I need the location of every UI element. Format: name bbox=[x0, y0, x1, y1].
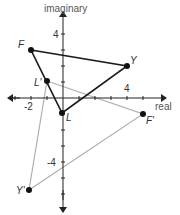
label-L-prime: L' bbox=[34, 77, 43, 88]
point-L-prime bbox=[44, 78, 50, 84]
tick-label-x-neg2: -2 bbox=[24, 101, 33, 112]
complex-plane-diagram: imaginary real -2 4 4 -4 F Y L L' F' Y' bbox=[0, 0, 180, 215]
real-axis-label: real bbox=[155, 101, 172, 112]
point-L bbox=[59, 110, 65, 116]
label-F-prime: F' bbox=[146, 115, 155, 126]
label-F: F bbox=[18, 39, 25, 50]
label-L: L bbox=[66, 112, 72, 123]
label-Y-prime: Y' bbox=[16, 185, 26, 196]
tick-label-x-4: 4 bbox=[124, 83, 130, 94]
tick-label-y-4: 4 bbox=[53, 29, 59, 40]
imaginary-axis-label: imaginary bbox=[44, 3, 87, 14]
point-Y-prime bbox=[26, 187, 32, 193]
image-triangle bbox=[29, 81, 143, 190]
label-Y: Y bbox=[130, 55, 138, 66]
vertex-points bbox=[26, 47, 146, 193]
point-F bbox=[28, 47, 34, 53]
tick-label-y-neg4: -4 bbox=[47, 157, 56, 168]
